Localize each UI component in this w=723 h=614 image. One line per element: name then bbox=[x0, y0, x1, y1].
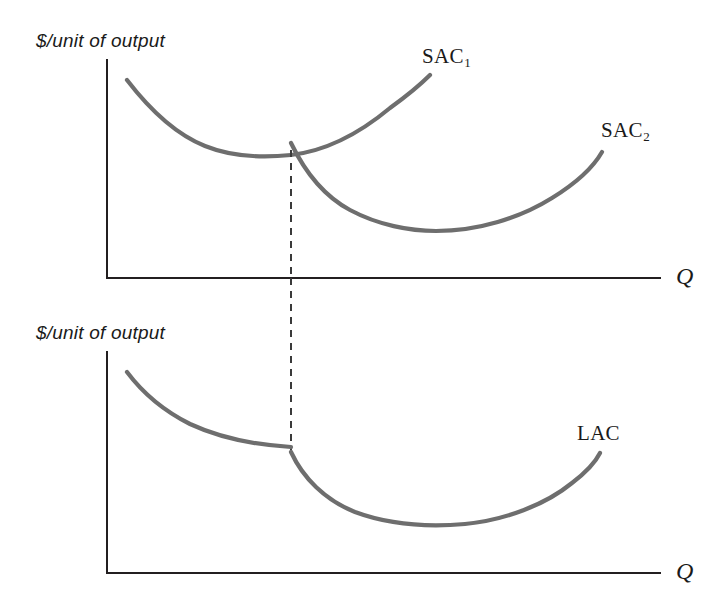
figure-canvas bbox=[0, 0, 723, 614]
lac-curve-segment-1 bbox=[127, 372, 291, 447]
sac2-curve bbox=[291, 143, 602, 231]
lower-y-axis-label: $/unit of output bbox=[36, 322, 165, 344]
lac-curve-segment-2 bbox=[291, 452, 600, 525]
cost-curves-figure: $/unit of output $/unit of output Q Q SA… bbox=[0, 0, 723, 614]
upper-panel bbox=[107, 60, 660, 278]
sac1-curve-label-subscript: 1 bbox=[464, 55, 471, 70]
sac2-curve-label-text: SAC bbox=[601, 118, 643, 142]
upper-y-axis-label: $/unit of output bbox=[36, 30, 165, 52]
sac1-curve-label: SAC1 bbox=[422, 44, 471, 69]
sac1-curve-label-text: SAC bbox=[422, 44, 464, 68]
lower-x-axis-label: Q bbox=[676, 558, 693, 585]
sac1-curve bbox=[127, 75, 430, 156]
upper-x-axis-label: Q bbox=[676, 263, 693, 290]
lower-panel bbox=[107, 352, 660, 573]
lac-curve-label: LAC bbox=[577, 421, 620, 446]
sac2-curve-label-subscript: 2 bbox=[643, 129, 650, 144]
sac2-curve-label: SAC2 bbox=[601, 118, 650, 143]
